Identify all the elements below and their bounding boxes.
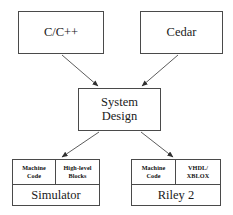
node-cpp-label: C/C++ <box>44 26 78 40</box>
node-cpp: C/C++ <box>18 11 104 54</box>
simulator-cell-high-level-blocks: High-level Blocks <box>56 160 99 184</box>
node-cedar: Cedar <box>140 11 223 54</box>
riley-name-row: Riley 2 <box>132 185 220 205</box>
riley-cell-vhdl-xblox: VHDL/ XBLOX <box>176 160 220 184</box>
node-system-design: System Design <box>78 88 161 131</box>
arrow-cedar-to-system-design <box>142 55 178 86</box>
simulator-output-row: Machine Code High-level Blocks <box>13 160 99 185</box>
simulator-name-row: Simulator <box>13 185 99 205</box>
node-riley-2: Machine Code VHDL/ XBLOX Riley 2 <box>131 159 221 206</box>
node-simulator: Machine Code High-level Blocks Simulator <box>12 159 100 206</box>
node-system-design-label: System Design <box>101 96 138 123</box>
simulator-cell-machine-code: Machine Code <box>13 160 56 184</box>
arrow-system-design-to-riley <box>141 132 173 157</box>
riley-cell-machine-code: Machine Code <box>132 160 176 184</box>
simulator-name-label: Simulator <box>31 188 80 203</box>
riley-output-row: Machine Code VHDL/ XBLOX <box>132 160 220 185</box>
arrow-cpp-to-system-design <box>62 55 98 86</box>
diagram-canvas: C/C++ Cedar System Design Machine Code H… <box>0 0 233 215</box>
riley-name-label: Riley 2 <box>158 188 194 203</box>
node-cedar-label: Cedar <box>167 26 197 40</box>
arrow-system-design-to-simulator <box>62 132 99 157</box>
